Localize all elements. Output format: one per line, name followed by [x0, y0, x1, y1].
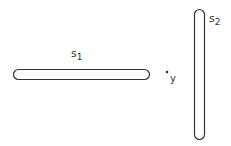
label-s2: s2 [209, 12, 220, 27]
label-s1: s1 [71, 47, 82, 62]
label-y: y [170, 73, 176, 84]
diagram-canvas: s1 s2 y [0, 0, 231, 146]
point-y [166, 71, 169, 74]
shape-s2 [195, 10, 205, 140]
shape-s1 [14, 70, 150, 80]
